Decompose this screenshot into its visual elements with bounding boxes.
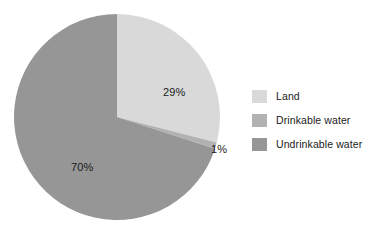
- chart-legend: Land Drinkable water Undrinkable water: [252, 84, 369, 156]
- legend-swatch-drinkable-water: [252, 114, 267, 127]
- pie-svg: [14, 14, 220, 220]
- slice-value-land: 29%: [163, 87, 185, 98]
- legend-swatch-undrinkable-water: [252, 138, 267, 151]
- slice-value-undrinkable-water: 70%: [71, 162, 93, 173]
- legend-label-undrinkable-water: Undrinkable water: [276, 139, 362, 150]
- legend-item-drinkable-water[interactable]: Drinkable water: [252, 108, 369, 132]
- legend-item-land[interactable]: Land: [252, 84, 369, 108]
- legend-label-land: Land: [276, 91, 300, 102]
- pie-chart: 29% 70% 1% Land Drinkable water Undrinka…: [0, 0, 369, 233]
- pie-graphic: 29% 70%: [14, 14, 220, 220]
- legend-label-drinkable-water: Drinkable water: [276, 115, 350, 126]
- legend-item-undrinkable-water[interactable]: Undrinkable water: [252, 132, 369, 156]
- slice-value-drinkable-water: 1%: [211, 144, 227, 155]
- legend-swatch-land: [252, 90, 267, 103]
